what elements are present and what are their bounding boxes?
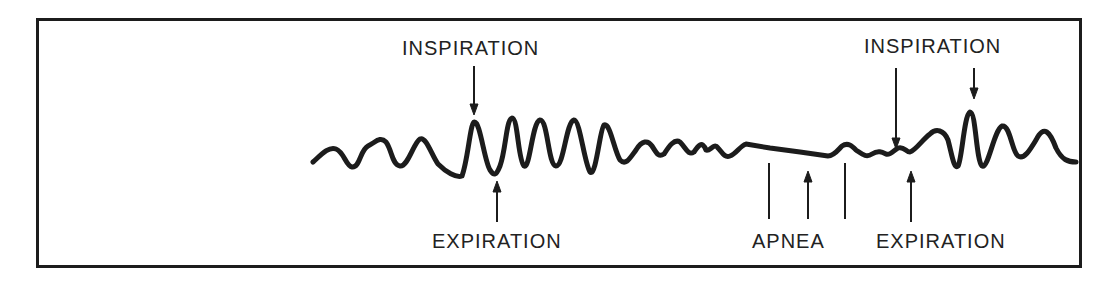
- inspiration-arrow-left: [470, 66, 478, 115]
- breathing-trace: [313, 112, 1076, 176]
- expiration-arrow-left: [493, 181, 501, 222]
- inspiration-label-right: INSPIRATION: [864, 36, 1001, 56]
- apnea-label: APNEA: [752, 231, 825, 251]
- expiration-arrow-right: [907, 171, 915, 222]
- apnea-markers: [769, 163, 845, 219]
- expiration-label-right: EXPIRATION: [876, 231, 1006, 251]
- inspiration-label-left: INSPIRATION: [402, 38, 539, 58]
- expiration-label-left: EXPIRATION: [432, 231, 562, 251]
